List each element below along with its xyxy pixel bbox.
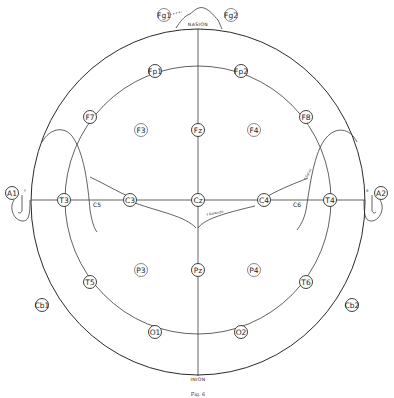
svg-text:C4: C4 <box>259 196 269 205</box>
svg-text:Cz: Cz <box>193 196 202 205</box>
electrode-c3: C3 <box>124 194 137 207</box>
c5-label: C5 <box>93 201 101 208</box>
electrode-f3: F3 <box>135 124 148 137</box>
left-ear <box>12 200 30 221</box>
svg-text:Fp2: Fp2 <box>234 67 248 76</box>
electrode-p4: P4 <box>248 264 261 277</box>
electrode-fp2: Fp2 <box>234 65 248 78</box>
electrode-fz: Fz <box>192 124 205 137</box>
svg-text:F7: F7 <box>85 113 94 122</box>
svg-text:T3: T3 <box>58 196 69 205</box>
svg-text:P3: P3 <box>136 266 146 275</box>
eeg-10-20-electrode-diagram: NASION INION Fig. 6 C5 C6 f Rolando f Sy… <box>0 0 394 398</box>
svg-text:F3: F3 <box>136 126 145 135</box>
electrode-cz: Cz <box>192 194 205 207</box>
electrode-t3: T3 <box>58 194 71 207</box>
rolando-fissure-label: f Rolando <box>206 210 223 217</box>
svg-text:C3: C3 <box>125 196 135 205</box>
svg-text:Fp1: Fp1 <box>148 67 162 76</box>
electrode-fg2: Fg2 <box>224 9 238 22</box>
electrode-pz: Pz <box>192 264 205 277</box>
svg-text:Pz: Pz <box>194 266 203 275</box>
svg-text:A2: A2 <box>376 189 386 198</box>
central-fissure-left <box>90 177 130 197</box>
svg-text:O1: O1 <box>150 328 161 337</box>
nose-bridge-dash <box>170 12 182 15</box>
electrode-f8: F8 <box>300 111 313 124</box>
svg-text:P4: P4 <box>249 266 259 275</box>
svg-text:T5: T5 <box>84 278 95 287</box>
svg-text:F4: F4 <box>249 126 258 135</box>
electrode-o2: O2 <box>235 326 248 339</box>
electrode-fg1: Fg1 <box>157 9 171 22</box>
electrode-fp1: Fp1 <box>148 65 162 78</box>
electrode-t5: T5 <box>84 276 97 289</box>
svg-text:Fg2: Fg2 <box>224 11 238 20</box>
electrode-c4: C4 <box>258 194 271 207</box>
central-fissure-lower-left <box>135 203 196 228</box>
svg-text:Cb1: Cb1 <box>35 301 50 310</box>
svg-text:T4: T4 <box>324 196 335 205</box>
electrode-f7: F7 <box>84 111 97 124</box>
figure-caption: Fig. 6 <box>191 391 206 398</box>
electrode-t4: T4 <box>324 194 337 207</box>
right-ear-inner <box>372 195 376 213</box>
right-ear-mark: B <box>366 189 369 193</box>
inion-label: INION <box>190 377 205 382</box>
sylvian-fissure-left <box>42 130 97 232</box>
nasion-label: NASION <box>188 22 208 27</box>
electrode-o1: O1 <box>149 326 162 339</box>
electrode-f4: F4 <box>248 124 261 137</box>
svg-text:A1: A1 <box>7 189 17 198</box>
electrode-cb1: Cb1 <box>35 299 50 312</box>
electrode-cb2: Cb2 <box>345 299 360 312</box>
c6-label: C6 <box>293 201 301 208</box>
svg-text:Cb2: Cb2 <box>345 301 360 310</box>
svg-text:T6: T6 <box>300 278 311 287</box>
electrode-p3: P3 <box>135 264 148 277</box>
right-ear <box>364 200 382 221</box>
left-ear-mark: F <box>24 189 26 193</box>
svg-text:O2: O2 <box>236 328 247 337</box>
electrode-a1: A1 <box>6 187 19 200</box>
svg-text:Fz: Fz <box>194 126 202 135</box>
central-fissure-right <box>268 178 308 196</box>
electrode-t6: T6 <box>300 276 313 289</box>
svg-text:F8: F8 <box>301 113 310 122</box>
electrode-a2: A2 <box>375 187 388 200</box>
svg-text:Fg1: Fg1 <box>157 11 171 20</box>
left-ear-inner <box>18 195 22 213</box>
